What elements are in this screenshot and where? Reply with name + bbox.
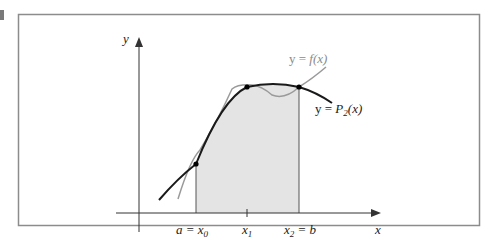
- tick-label-x2: x2 = b: [283, 222, 317, 239]
- p2-curve-label: y = P2(x): [315, 101, 362, 118]
- point-x2: [296, 84, 301, 89]
- point-x0: [193, 161, 198, 166]
- tick-label-x1: x1: [241, 222, 252, 239]
- f-curve-label: y = f(x): [289, 51, 327, 66]
- y-axis-label: y: [121, 31, 129, 46]
- x-axis-label: x: [374, 222, 381, 237]
- tick-label-x0: a = x0: [176, 222, 209, 239]
- y-axis-arrow-icon: [135, 37, 143, 47]
- point-x1: [244, 84, 249, 89]
- x-axis-arrow-icon: [371, 209, 381, 217]
- simpsons-rule-figure: y x y = f(x) y = P2(x) a = x0 x1 x2 = b: [0, 0, 497, 241]
- shaded-area: [196, 84, 299, 213]
